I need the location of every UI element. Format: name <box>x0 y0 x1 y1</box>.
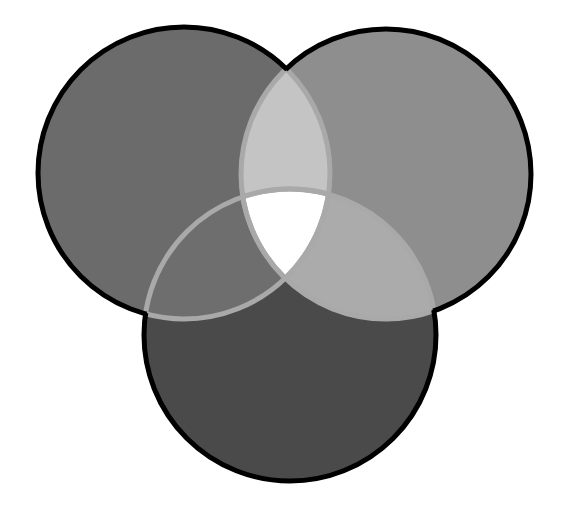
venn-diagram-canvas <box>0 0 567 516</box>
three-set-venn-diagram <box>0 0 567 516</box>
